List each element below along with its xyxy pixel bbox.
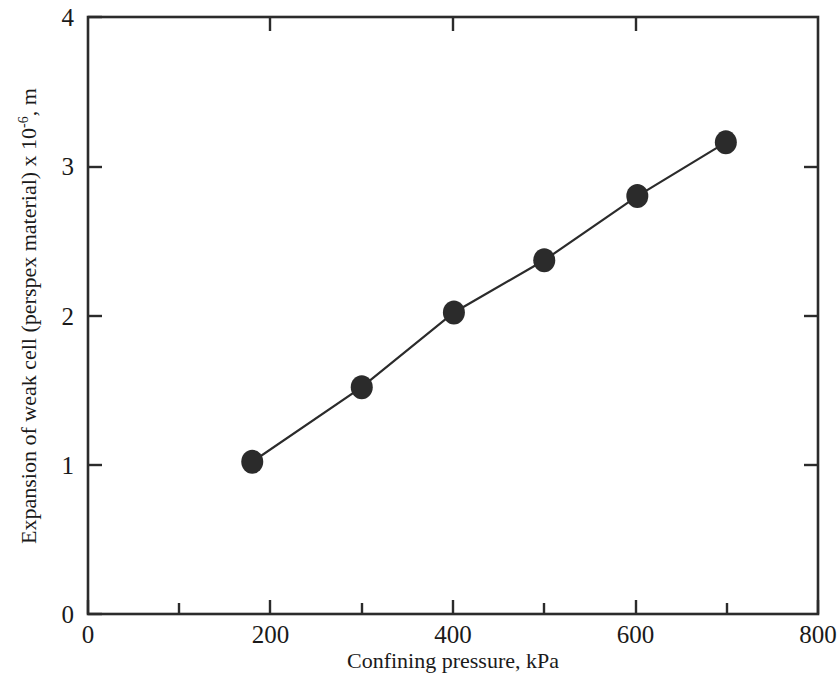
x-tick-label: 200 — [252, 621, 290, 648]
data-point-marker — [443, 301, 465, 325]
y-axis-ticks — [88, 17, 102, 614]
x-axis-title: Confining pressure, kPa — [347, 648, 559, 673]
y-axis-title: Expansion of weak cell (perspex material… — [16, 88, 41, 544]
y-tick-label: 1 — [62, 452, 75, 479]
y-axis-title-group: Expansion of weak cell (perspex material… — [16, 88, 41, 544]
y-tick-label: 3 — [62, 153, 75, 180]
x-tick-label: 400 — [434, 621, 472, 648]
x-tick-label-group: 0200400600800 — [82, 621, 837, 648]
data-point-marker — [626, 184, 648, 208]
data-point-marker — [351, 375, 373, 399]
data-point-marker — [715, 130, 737, 154]
x-tick-label: 0 — [82, 621, 95, 648]
y-axis-title-main: Expansion of weak cell (perspex material… — [16, 128, 41, 544]
data-point-marker — [241, 450, 263, 474]
x-tick-label: 800 — [799, 621, 837, 648]
chart-canvas: 0200400600800 01234 Confining pressure, … — [0, 0, 838, 673]
x-axis-ticks — [88, 600, 818, 614]
x-tick-label: 600 — [617, 621, 655, 648]
y-axis-title-exponent: -6 — [16, 116, 31, 128]
chart-figure: 0200400600800 01234 Confining pressure, … — [0, 0, 838, 673]
data-series-line — [252, 142, 726, 461]
y-axis-right-ticks — [804, 167, 818, 465]
data-point-marker — [533, 248, 555, 272]
y-tick-label-group: 01234 — [62, 4, 75, 628]
x-axis-top-ticks — [270, 17, 636, 31]
y-tick-label: 2 — [62, 303, 75, 330]
y-tick-label: 0 — [62, 601, 75, 628]
y-tick-label: 4 — [62, 4, 75, 31]
y-axis-title-tail: , m — [16, 88, 41, 116]
